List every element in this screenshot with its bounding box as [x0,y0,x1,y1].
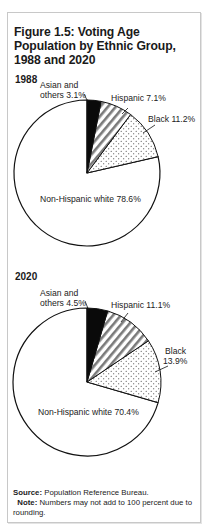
label-white-1988: Non-Hispanic white 78.6% [40,194,141,204]
label-black-2020-line1: Black [165,346,186,356]
label-black-1988: Black 11.2% [148,114,195,124]
note-line: Note: Numbers may not add to 100 percent… [13,498,199,518]
label-hispanic-1988: Hispanic 7.1% [111,93,166,103]
label-black-2020-line2: 13.9% [163,356,187,366]
figure-footer: Source: Population Reference Bureau. Not… [13,488,199,518]
source-label: Source: [13,488,42,497]
pie-charts [0,0,208,532]
pie-1988 [14,94,160,246]
year-label-2020: 2020 [15,271,37,282]
label-asian-2020-line1: Asian and [40,288,78,298]
source-line: Source: Population Reference Bureau. [13,488,199,498]
label-hispanic-2020: Hispanic 11.1% [111,300,170,310]
label-asian-1988-line1: Asian and [40,80,78,90]
label-asian-1988-line2: others 3.1% [40,90,86,100]
label-asian-2020-line2: others 4.5% [40,298,86,308]
pie-2020 [13,301,168,456]
note-label: Note: [17,498,37,507]
note-text: Numbers may not add to 100 percent due t… [13,498,192,517]
label-white-2020: Non-Hispanic white 70.4% [38,407,139,417]
source-text: Population Reference Bureau. [42,488,149,497]
